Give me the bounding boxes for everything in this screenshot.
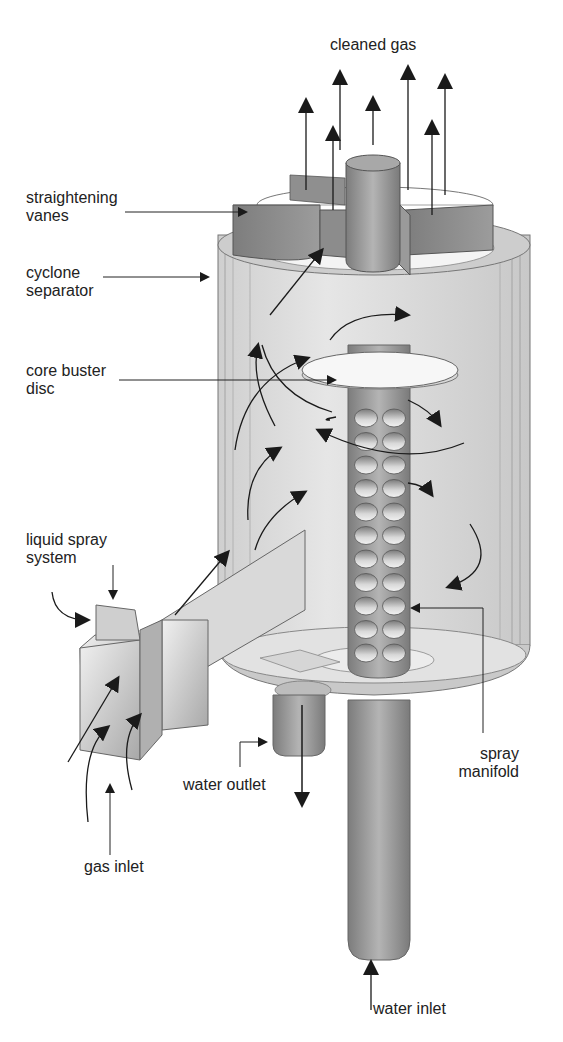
label-straightening-vanes-line2: vanes [26, 207, 118, 225]
spray-nozzle [355, 621, 378, 639]
spray-manifold [348, 345, 410, 678]
spray-nozzle [383, 550, 406, 568]
label-cyclone-separator: cyclone separator [26, 264, 94, 300]
label-gas-inlet: gas inlet [84, 858, 144, 876]
spray-nozzle [383, 480, 406, 498]
spray-nozzle [355, 503, 378, 521]
label-straightening-vanes-line1: straightening [26, 189, 118, 207]
label-straightening-vanes: straightening vanes [26, 189, 118, 225]
label-spray-manifold: spray manifold [440, 745, 519, 781]
label-core-buster-disc: core buster disc [26, 362, 106, 398]
spray-nozzle [355, 550, 378, 568]
spray-nozzle [383, 597, 406, 615]
spray-nozzle [355, 644, 378, 662]
spray-nozzle [383, 644, 406, 662]
spray-nozzle [383, 574, 406, 592]
spray-nozzle [383, 433, 406, 451]
cyclone-scrubber-diagram [0, 0, 563, 1042]
label-core-buster-disc-line1: core buster [26, 362, 106, 380]
spray-nozzle [355, 409, 378, 427]
label-spray-manifold-line1: spray [440, 745, 519, 763]
spray-nozzle [383, 456, 406, 474]
water-inlet-pipe [348, 700, 410, 960]
label-water-inlet: water inlet [373, 1000, 446, 1018]
label-cyclone-separator-line1: cyclone [26, 264, 94, 282]
label-water-outlet: water outlet [183, 776, 266, 794]
spray-nozzle [383, 503, 406, 521]
core-buster-disc [302, 352, 458, 389]
label-liquid-spray-system: liquid spray system [26, 531, 107, 567]
label-core-buster-disc-line2: disc [26, 380, 106, 398]
label-cleaned-gas: cleaned gas [330, 36, 416, 54]
spray-nozzle [355, 456, 378, 474]
spray-nozzle [355, 597, 378, 615]
spray-nozzle [355, 527, 378, 545]
spray-nozzle [383, 621, 406, 639]
spray-nozzle [383, 409, 406, 427]
label-liquid-spray-system-line2: system [26, 549, 107, 567]
spray-nozzle [383, 527, 406, 545]
water-outlet-pipe [273, 695, 325, 805]
label-liquid-spray-system-line1: liquid spray [26, 531, 107, 549]
spray-nozzle [355, 574, 378, 592]
spray-nozzle [355, 480, 378, 498]
label-cyclone-separator-line2: separator [26, 282, 94, 300]
label-spray-manifold-line2: manifold [440, 763, 519, 781]
